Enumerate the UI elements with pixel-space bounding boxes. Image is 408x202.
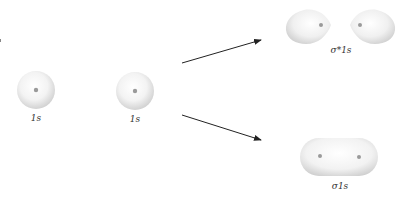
nucleus-dot (34, 88, 38, 92)
label-bonding: σ1s (332, 181, 349, 191)
label-right-1s: 1s (130, 114, 140, 124)
atomic-orbital-left (17, 71, 55, 109)
bonding-orbital (300, 138, 378, 176)
nucleus-dot (319, 23, 323, 27)
atomic-orbital-right (116, 72, 154, 110)
orbital-diagram (0, 0, 408, 202)
label-antibonding: σ*1s (331, 45, 352, 55)
antibonding-orbital (286, 10, 395, 44)
nucleus-dot (357, 155, 361, 159)
arrow-to-bonding (182, 115, 261, 140)
arrow-to-antibonding (182, 40, 261, 63)
label-left-1s: 1s (31, 113, 41, 123)
nucleus-dot (318, 154, 322, 158)
nucleus-dot (133, 89, 137, 93)
nucleus-dot (358, 23, 362, 27)
